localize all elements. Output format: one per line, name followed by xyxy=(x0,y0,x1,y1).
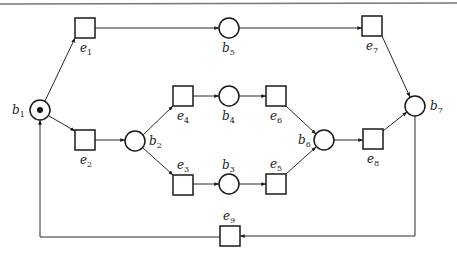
arc-e7-to-b7 xyxy=(382,36,410,97)
arc-b2-to-e4 xyxy=(143,106,173,135)
transition-e5 xyxy=(266,174,286,194)
place-label-b4: b4 xyxy=(222,109,235,125)
transition-e4 xyxy=(173,86,193,106)
place-b4 xyxy=(219,86,239,106)
transition-e3 xyxy=(173,175,193,195)
transition-e2 xyxy=(75,130,95,150)
transition-label-e3: e3 xyxy=(177,158,189,174)
top-rule-divider xyxy=(0,3,457,4)
transition-label-e7: e7 xyxy=(366,39,378,55)
place-label-b1: b1 xyxy=(12,103,25,119)
transition-label-e9: e9 xyxy=(223,209,235,225)
transition-e1 xyxy=(75,18,95,38)
place-label-b3: b3 xyxy=(222,158,235,174)
transition-label-e5: e5 xyxy=(270,157,282,173)
place-label-b6: b6 xyxy=(298,133,311,149)
transition-label-e2: e2 xyxy=(80,153,92,169)
arcs-group xyxy=(40,28,415,237)
transition-label-e6: e6 xyxy=(270,109,282,125)
arc-b1-to-e1 xyxy=(45,38,75,101)
place-label-b5: b5 xyxy=(222,41,235,57)
transition-e9 xyxy=(220,226,240,246)
place-b5 xyxy=(219,18,239,38)
petri-net-diagram: b1b2b3b4b5b6b7e1e2e3e4e5e6e7e8e9 xyxy=(0,0,457,256)
place-label-b2: b2 xyxy=(149,134,162,150)
arc-b2-to-e3 xyxy=(143,148,173,175)
transition-label-e8: e8 xyxy=(367,152,379,168)
place-label-b7: b7 xyxy=(430,99,443,115)
transition-e8 xyxy=(363,129,383,149)
transition-label-e1: e1 xyxy=(80,41,92,57)
arc-e8-to-b7 xyxy=(383,112,407,131)
place-b7 xyxy=(405,96,425,116)
place-b2 xyxy=(125,131,145,151)
arc-e5-to-b6 xyxy=(286,147,316,174)
place-b6 xyxy=(314,130,334,150)
transition-label-e4: e4 xyxy=(177,109,189,125)
token-icon xyxy=(37,107,43,113)
place-b3 xyxy=(219,174,239,194)
transition-e7 xyxy=(362,16,382,36)
arc-b1-to-e2 xyxy=(49,116,75,131)
transition-e6 xyxy=(266,86,286,106)
arc-e6-to-b6 xyxy=(286,106,316,134)
